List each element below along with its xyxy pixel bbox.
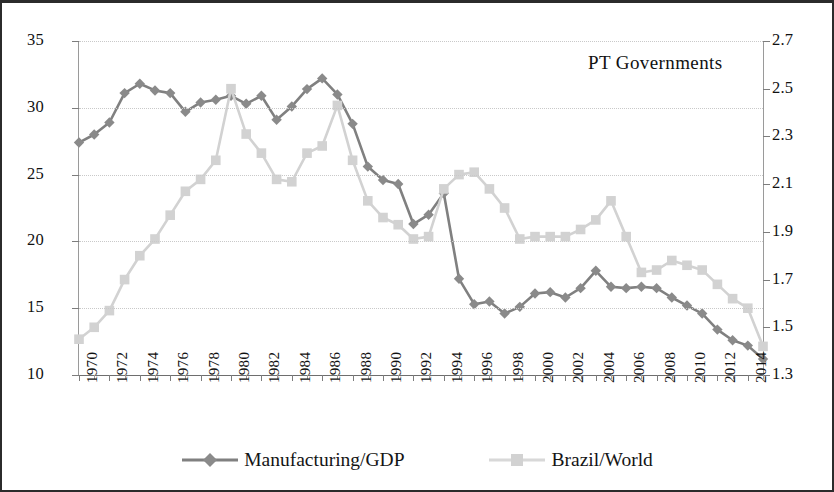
x-axis-label: 2002 <box>570 352 587 383</box>
x-axis-tick <box>292 375 293 381</box>
legend-label-brazil-world: Brazil/World <box>551 449 652 471</box>
x-axis-label: 1970 <box>84 352 101 383</box>
x-axis-label: 1988 <box>358 352 375 383</box>
data-point-diamond <box>150 85 160 95</box>
data-point-square <box>226 84 236 94</box>
data-point-square <box>165 210 175 220</box>
y-axis-label-right: 1.5 <box>772 316 793 336</box>
y-axis-label-left: 10 <box>27 364 44 384</box>
data-point-square <box>89 322 99 332</box>
x-axis-tick <box>170 375 171 381</box>
data-point-square <box>424 232 434 242</box>
y-axis-label-right: 1.9 <box>772 221 793 241</box>
y-axis-label-right: 2.7 <box>772 30 793 50</box>
gridline <box>79 175 763 176</box>
x-axis-label: 2012 <box>722 352 739 383</box>
data-point-square <box>363 196 373 206</box>
y-axis-tick-left <box>72 308 79 309</box>
y-axis-tick-right <box>763 184 770 185</box>
x-axis-label: 1984 <box>297 352 314 383</box>
y-axis-tick-right <box>763 41 770 42</box>
x-axis-label: 1972 <box>114 352 131 383</box>
x-axis-label: 1980 <box>236 352 253 383</box>
data-point-square <box>74 334 84 344</box>
pt-governments-annotation: PT Governments <box>588 52 723 74</box>
y-axis-tick-left <box>72 41 79 42</box>
data-point-square <box>272 175 282 185</box>
x-axis-tick <box>748 375 749 381</box>
data-point-square <box>181 187 191 197</box>
y-axis-tick-right <box>763 89 770 90</box>
data-point-square <box>697 265 707 275</box>
data-point-square <box>561 232 571 242</box>
x-axis-tick <box>535 375 536 381</box>
series-line <box>79 78 763 359</box>
data-point-diamond <box>621 283 631 293</box>
y-axis-tick-right <box>763 136 770 137</box>
data-point-square <box>652 265 662 275</box>
legend-item-brazil-world: Brazil/World <box>488 449 652 471</box>
x-axis-label: 1976 <box>175 352 192 383</box>
data-point-square <box>317 141 327 151</box>
x-axis-tick <box>505 375 506 381</box>
plot-area <box>78 41 764 376</box>
x-axis-tick <box>79 375 80 381</box>
data-point-square <box>576 225 586 235</box>
x-axis-tick <box>353 375 354 381</box>
series-brazil-world <box>74 84 768 351</box>
data-point-diamond <box>393 179 403 189</box>
diamond-marker-icon <box>181 451 239 469</box>
data-point-diamond <box>74 137 84 147</box>
legend-label-manufacturing-gdp: Manufacturing/GDP <box>244 449 404 471</box>
x-axis-label: 1992 <box>418 352 435 383</box>
y-axis-label-left: 35 <box>27 30 44 50</box>
x-axis-label: 1998 <box>510 352 527 383</box>
data-point-square <box>302 148 312 158</box>
x-axis-tick <box>413 375 414 381</box>
series-layer <box>79 41 763 375</box>
x-axis-tick <box>322 375 323 381</box>
x-axis-tick <box>261 375 262 381</box>
x-axis-label: 1994 <box>449 352 466 383</box>
data-point-square <box>196 175 206 185</box>
x-axis-tick <box>444 375 445 381</box>
y-axis-tick-right <box>763 327 770 328</box>
x-axis-label: 1982 <box>266 352 283 383</box>
y-axis-tick-left <box>72 241 79 242</box>
x-axis-tick <box>474 375 475 381</box>
legend-item-manufacturing-gdp: Manufacturing/GDP <box>181 449 404 471</box>
x-axis-label: 1996 <box>479 352 496 383</box>
data-point-square <box>500 203 510 213</box>
x-axis-tick <box>383 375 384 381</box>
x-axis-label: 2010 <box>692 352 709 383</box>
x-axis-tick <box>109 375 110 381</box>
gridline <box>79 108 763 109</box>
data-point-square <box>591 215 601 225</box>
x-axis-tick <box>231 375 232 381</box>
data-point-square <box>606 196 616 206</box>
x-axis-label: 1978 <box>206 352 223 383</box>
data-point-diamond <box>211 95 221 105</box>
x-axis-tick <box>657 375 658 381</box>
x-axis-tick <box>565 375 566 381</box>
data-point-square <box>348 155 358 165</box>
x-axis-tick <box>687 375 688 381</box>
data-point-square <box>378 213 388 223</box>
data-point-square <box>439 184 449 194</box>
gridline <box>79 308 763 309</box>
data-point-square <box>120 275 130 285</box>
chart-legend: Manufacturing/GDP Brazil/World <box>2 449 832 471</box>
x-axis-label: 2008 <box>662 352 679 383</box>
y-axis-label-left: 20 <box>27 230 44 250</box>
x-axis-label: 2006 <box>631 352 648 383</box>
x-axis-label: 2000 <box>540 352 557 383</box>
x-axis-tick <box>717 375 718 381</box>
data-point-square <box>713 280 723 290</box>
y-axis-tick-right <box>763 232 770 233</box>
y-axis-tick-left <box>72 175 79 176</box>
x-axis-label: 2004 <box>601 352 618 383</box>
x-axis-label: 1974 <box>145 352 162 383</box>
chart-figure: PT Governments Manufacturing/GDP Brazil/… <box>0 0 834 492</box>
y-axis-label-right: 2.1 <box>772 173 793 193</box>
y-axis-label-left: 25 <box>27 164 44 184</box>
